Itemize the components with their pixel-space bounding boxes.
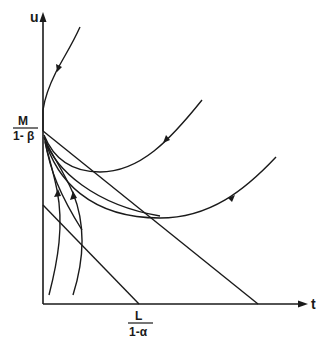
x-intercept-label: L 1-α <box>128 309 153 339</box>
converging-curve-1 <box>45 139 160 216</box>
u-axis-arrow-icon <box>40 12 47 22</box>
t-axis-arrow-icon <box>298 301 308 308</box>
u-axis-label: u <box>30 9 39 25</box>
phase-diagram: u t M 1- β L 1-α <box>0 0 326 342</box>
x-intercept-numerator: L <box>135 309 142 323</box>
y-intercept-numerator: M <box>18 114 28 128</box>
upper-u-trajectory-arrow-icon <box>163 135 170 143</box>
top-trajectory <box>43 27 80 131</box>
x-intercept-denominator: 1-α <box>129 325 148 339</box>
lower-u-trajectory <box>44 137 276 218</box>
bottom-trajectory-left <box>45 142 60 295</box>
upper-u-trajectory <box>44 100 202 172</box>
y-intercept-label: M 1- β <box>13 114 38 143</box>
bottom-trajectory-right-arrow-icon <box>70 191 77 200</box>
t-axis-label: t <box>311 296 316 312</box>
y-intercept-denominator: 1- β <box>13 129 34 143</box>
